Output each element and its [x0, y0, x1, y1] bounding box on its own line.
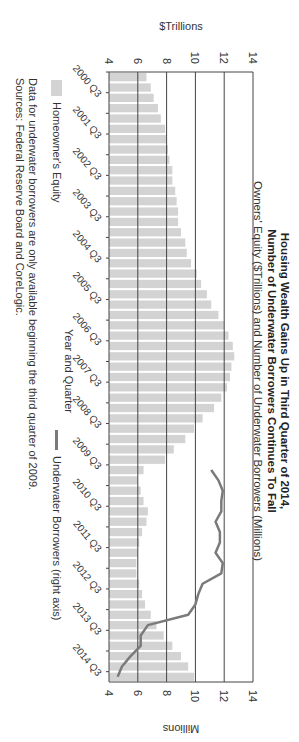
bar-equity — [109, 342, 233, 350]
bar-equity — [109, 404, 214, 412]
bar-equity — [109, 249, 187, 257]
bar-equity — [109, 207, 178, 215]
y-tick-label-right: 6 — [132, 690, 144, 696]
y-tick-label-right: 14 — [247, 690, 259, 702]
x-tick-label: 2002 Q3 — [71, 145, 104, 182]
x-tick-label: 2011 Q3 — [71, 518, 104, 554]
legend: Homeowner's Equity Underwater Borrowers … — [45, 80, 65, 680]
x-tick-label: 2009 Q3 — [71, 435, 104, 472]
bar-equity — [109, 94, 154, 102]
x-tick-label: 2013 Q3 — [71, 600, 104, 637]
bar-equity — [109, 487, 141, 495]
bar-equity — [109, 352, 234, 360]
x-tick-label: 2005 Q3 — [71, 269, 104, 306]
bar-equity — [109, 559, 136, 567]
x-tick-label: 2001 Q3 — [71, 104, 104, 141]
note-sources: Sources: Federal Reserve Board and CoreL… — [13, 78, 26, 490]
legend-item-underwater: Underwater Borrowers (right axis) — [51, 430, 63, 620]
legend-swatch-line — [56, 430, 59, 450]
bar-equity — [109, 311, 218, 319]
bar-equity — [109, 332, 229, 340]
bar-equity — [109, 518, 146, 526]
bar-equity — [109, 228, 181, 236]
bar-equity — [109, 125, 165, 133]
bar-equity — [109, 600, 145, 608]
bar-equity — [109, 145, 168, 153]
bar-equity — [109, 528, 142, 536]
bar-equity — [109, 104, 158, 112]
note-data-availability: Data for underwater borrowers are only a… — [26, 78, 39, 490]
legend-label-equity: Homeowner's Equity — [51, 102, 63, 203]
bar-equity — [109, 363, 231, 371]
y-tick-label-left: 8 — [161, 58, 173, 64]
bar-equity — [109, 269, 197, 277]
bar-equity — [109, 238, 185, 246]
y-tick-label-left: 6 — [132, 58, 144, 64]
bar-equity — [109, 631, 164, 639]
y-tick-label-left: 12 — [218, 52, 230, 64]
x-tick-label: 2012 Q3 — [71, 559, 104, 596]
bar-equity — [109, 652, 181, 660]
x-tick-label: 2006 Q3 — [71, 311, 104, 348]
x-tick-label: 2008 Q3 — [71, 394, 104, 431]
bar-equity — [109, 580, 139, 588]
bar-equity — [109, 673, 194, 681]
bar-equity — [109, 435, 185, 443]
bar-equity — [109, 73, 146, 81]
legend-swatch-bar — [52, 80, 63, 96]
y-tick-label-left: 14 — [247, 52, 259, 64]
bar-equity — [109, 456, 165, 464]
x-tick-label: 2010 Q3 — [71, 476, 104, 513]
bar-equity — [109, 497, 144, 505]
bar-equity — [109, 290, 207, 298]
bar-equity — [109, 425, 194, 433]
bar-equity — [109, 187, 175, 195]
bar-equity — [109, 476, 138, 484]
x-tick-label: 2000 Q3 — [71, 63, 104, 100]
bar-equity — [109, 394, 221, 402]
x-tick-label: 2004 Q3 — [71, 228, 104, 265]
bar-equity — [109, 373, 230, 381]
bar-equity — [109, 590, 142, 598]
bar-equity — [109, 538, 139, 546]
bar-equity — [109, 549, 138, 557]
bar-equity — [109, 176, 172, 184]
y-axis-title-left: $Trillions — [159, 20, 203, 32]
bar-equity — [109, 383, 227, 391]
y-tick-label-right: 10 — [189, 690, 201, 702]
y-tick-label-right: 8 — [161, 690, 173, 696]
bar-equity — [109, 300, 211, 308]
bar-equity — [109, 156, 169, 164]
bar-equity — [109, 414, 203, 422]
bar-equity — [109, 280, 201, 288]
bar-equity — [109, 218, 178, 226]
chart-notes: Data for underwater borrowers are only a… — [13, 78, 39, 490]
bar-equity — [109, 166, 172, 174]
bar-equity — [109, 83, 151, 91]
x-tick-label: 2003 Q3 — [71, 187, 104, 224]
legend-label-underwater: Underwater Borrowers (right axis) — [51, 456, 63, 620]
bar-equity — [109, 569, 136, 577]
legend-item-equity: Homeowner's Equity — [51, 80, 63, 203]
bar-equity — [109, 507, 148, 515]
bar-equity — [109, 466, 144, 474]
y-tick-label-left: 4 — [103, 58, 115, 64]
x-tick-label: 2014 Q3 — [71, 642, 104, 679]
y-tick-label-right: 12 — [218, 690, 230, 702]
y-tick-label-right: 4 — [103, 690, 115, 696]
bar-equity — [109, 445, 174, 453]
bar-equity — [109, 259, 191, 267]
y-tick-label-left: 10 — [189, 52, 201, 64]
bar-equity — [109, 114, 161, 122]
chart-stage: Housing Wealth Gains Up in Third Quarter… — [0, 0, 299, 742]
bar-equity — [109, 611, 151, 619]
y-axis-title-right: Millions — [162, 723, 199, 735]
x-tick-label: 2007 Q3 — [71, 352, 104, 389]
